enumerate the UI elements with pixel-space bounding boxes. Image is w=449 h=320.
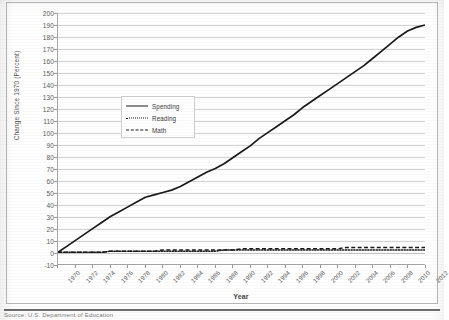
- x-axis-tick-mark: [390, 265, 391, 268]
- y-axis-tick-label: 100: [43, 130, 54, 137]
- x-axis-tick-label: 1986: [206, 269, 221, 284]
- series-line-spending: [58, 25, 425, 252]
- x-axis-tick-mark: [197, 265, 198, 268]
- y-axis-tick-label: 190: [43, 22, 54, 29]
- legend-swatch-dashed-icon: [126, 127, 148, 133]
- y-axis-tick-label: 160: [43, 58, 54, 65]
- x-axis-tick-label: 1996: [294, 269, 309, 284]
- series-layer: [58, 13, 425, 264]
- y-axis-tick-label: 140: [43, 82, 54, 89]
- y-axis-tick-mark: [54, 205, 57, 206]
- y-axis-tick-labels: 2001901801701601501401301201101009080706…: [30, 13, 54, 265]
- y-axis-tick-label: 70: [47, 166, 54, 173]
- y-axis-tick-label: 60: [47, 178, 54, 185]
- x-axis-tick-label: 1978: [136, 269, 151, 284]
- x-axis-tick-label: 2006: [382, 269, 397, 284]
- y-axis-tick-mark: [54, 13, 57, 14]
- x-axis-tick-label: 1970: [66, 269, 81, 284]
- x-axis-tick-mark: [425, 265, 426, 268]
- y-axis-tick-mark: [54, 85, 57, 86]
- x-axis-tick-label: 2000: [329, 269, 344, 284]
- y-axis-tick-label: 170: [43, 46, 54, 53]
- figure-bottom-rule: [4, 309, 440, 311]
- x-axis-tick-mark: [180, 265, 181, 268]
- x-axis-tick-label: 1998: [311, 269, 326, 284]
- y-axis-tick-mark: [54, 193, 57, 194]
- x-axis-tick-mark: [75, 265, 76, 268]
- x-axis-tick-mark: [162, 265, 163, 268]
- y-axis-tick-label: 180: [43, 34, 54, 41]
- y-axis-tick-mark: [54, 121, 57, 122]
- y-axis-tick-mark: [54, 109, 57, 110]
- legend-item-math[interactable]: Math: [126, 124, 190, 136]
- x-axis-tick-mark: [250, 265, 251, 268]
- x-axis-tick-label: 1994: [276, 269, 291, 284]
- x-axis-tick-label: 2004: [364, 269, 379, 284]
- y-axis-tick-mark: [54, 217, 57, 218]
- y-axis-tick-label: -10: [44, 262, 54, 269]
- y-axis-tick-label: 20: [47, 226, 54, 233]
- legend-label: Math: [152, 127, 166, 134]
- x-axis-title: Year: [57, 293, 425, 300]
- y-axis-tick-marks: [54, 13, 57, 265]
- x-axis-tick-mark: [57, 265, 58, 268]
- y-axis-title: Change Since 1970 (Percent): [13, 16, 20, 176]
- y-axis-tick-mark: [54, 133, 57, 134]
- x-axis-tick-mark: [127, 265, 128, 268]
- y-axis-tick-label: 130: [43, 94, 54, 101]
- y-axis-tick-mark: [54, 73, 57, 74]
- x-axis-tick-mark: [232, 265, 233, 268]
- y-axis-tick-label: 30: [47, 214, 54, 221]
- x-axis-tick-label: 1972: [84, 269, 99, 284]
- y-axis-tick-label: 200: [43, 10, 54, 17]
- y-axis-tick-mark: [54, 241, 57, 242]
- y-axis-tick-mark: [54, 145, 57, 146]
- y-axis-tick-mark: [54, 229, 57, 230]
- x-axis-tick-label: 1984: [189, 269, 204, 284]
- x-axis-tick-mark: [302, 265, 303, 268]
- x-axis-tick-label: 2008: [399, 269, 414, 284]
- x-axis-tick-mark: [110, 265, 111, 268]
- x-axis-tick-label: 1988: [224, 269, 239, 284]
- legend-label: Spending: [152, 103, 179, 110]
- y-axis-tick-mark: [54, 157, 57, 158]
- y-axis-tick-label: 80: [47, 154, 54, 161]
- y-axis-tick-mark: [54, 181, 57, 182]
- figure-caption-clipped: Source: U.S. Department of Education: [4, 312, 204, 320]
- x-axis-tick-mark: [337, 265, 338, 268]
- x-axis-tick-label: 1976: [119, 269, 134, 284]
- y-axis-tick-mark: [54, 97, 57, 98]
- x-axis-tick-mark: [145, 265, 146, 268]
- y-axis-tick-mark: [54, 25, 57, 26]
- x-axis-tick-mark: [215, 265, 216, 268]
- legend-swatch-dotted-icon: [126, 115, 148, 121]
- y-axis-tick-label: 110: [43, 118, 54, 125]
- x-axis-tick-labels: 1970197219741976197819801982198419861988…: [57, 269, 425, 295]
- x-axis-tick-mark: [372, 265, 373, 268]
- y-axis-tick-mark: [54, 61, 57, 62]
- x-axis-tick-label: 1974: [101, 269, 116, 284]
- y-axis-tick-label: 120: [43, 106, 54, 113]
- y-axis-tick-label: 150: [43, 70, 54, 77]
- x-axis-tick-label: 1992: [259, 269, 274, 284]
- y-axis-tick-label: 10: [47, 238, 54, 245]
- y-axis-tick-mark: [54, 37, 57, 38]
- legend-swatch-solid-icon: [126, 103, 148, 109]
- legend-item-spending[interactable]: Spending: [126, 100, 190, 112]
- y-axis-tick-label: 50: [47, 190, 54, 197]
- chart-legend: SpendingReadingMath: [121, 96, 195, 138]
- x-axis-tick-label: 1982: [171, 269, 186, 284]
- x-axis-tick-marks: [57, 265, 425, 268]
- x-axis-tick-mark: [407, 265, 408, 268]
- x-axis-tick-mark: [92, 265, 93, 268]
- x-axis-tick-label: 2002: [347, 269, 362, 284]
- y-axis-tick-mark: [54, 253, 57, 254]
- x-axis-tick-label: 1980: [154, 269, 169, 284]
- y-axis-tick-mark: [54, 169, 57, 170]
- x-axis-tick-mark: [267, 265, 268, 268]
- legend-item-reading[interactable]: Reading: [126, 112, 190, 124]
- x-axis-tick-label: 1990: [241, 269, 256, 284]
- y-axis-tick-mark: [54, 49, 57, 50]
- y-axis-tick-label: 90: [47, 142, 54, 149]
